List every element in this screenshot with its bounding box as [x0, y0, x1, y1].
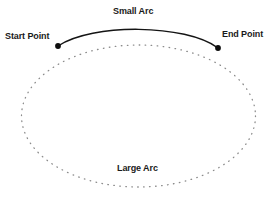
- end-point-label: End Point: [222, 29, 263, 40]
- small-arc-label: Small Arc: [113, 6, 153, 17]
- large-arc-label: Large Arc: [117, 163, 158, 174]
- end-point-marker: [215, 45, 221, 51]
- arc-diagram-canvas: Start Point End Point Small Arc Large Ar…: [0, 0, 278, 197]
- small-arc-curve: [58, 29, 218, 48]
- start-point-marker: [55, 43, 61, 49]
- start-point-label: Start Point: [5, 31, 49, 42]
